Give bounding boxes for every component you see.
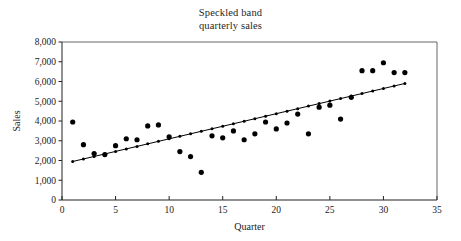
data-point — [145, 123, 150, 128]
data-point — [274, 126, 279, 131]
trend-line-marker — [200, 130, 203, 133]
data-point — [92, 151, 97, 156]
data-point — [242, 137, 247, 142]
trend-line-marker — [371, 90, 374, 93]
data-point — [70, 119, 75, 124]
x-tick-label: 35 — [432, 205, 442, 215]
data-point — [124, 136, 129, 141]
y-tick-label: 4,000 — [35, 116, 57, 126]
data-point — [102, 152, 107, 157]
trend-line-marker — [339, 97, 342, 100]
trend-line-marker — [286, 110, 289, 113]
trend-line-marker — [361, 92, 364, 95]
data-point — [81, 142, 86, 147]
data-point — [220, 135, 225, 140]
trend-line-marker — [189, 132, 192, 135]
trend-line-marker — [157, 140, 160, 143]
data-point — [370, 68, 375, 73]
y-tick-label: 3,000 — [35, 136, 57, 146]
trend-line-marker — [82, 157, 85, 160]
trend-line-marker — [403, 82, 406, 85]
data-point — [252, 131, 257, 136]
trend-line-marker — [275, 112, 278, 115]
data-point — [177, 149, 182, 154]
x-tick-label: 5 — [113, 205, 118, 215]
trend-line-marker — [221, 125, 224, 128]
trend-line-marker — [382, 87, 385, 90]
data-point-series — [70, 60, 407, 175]
x-axis-ticks: 05101520253035 — [60, 196, 442, 215]
y-axis-title: Sales — [11, 110, 22, 131]
data-point — [209, 133, 214, 138]
trend-line-marker — [393, 84, 396, 87]
trend-line-marker — [296, 107, 299, 110]
x-tick-label: 20 — [272, 205, 282, 215]
trend-line-marker — [253, 117, 256, 120]
data-point — [392, 70, 397, 75]
x-tick-label: 15 — [218, 205, 228, 215]
trend-line-marker — [211, 127, 214, 130]
trend-line-marker — [136, 145, 139, 148]
data-point — [134, 137, 139, 142]
trend-line — [71, 82, 406, 163]
data-point — [381, 60, 386, 65]
trend-line-marker — [71, 160, 74, 163]
y-tick-label: 7,000 — [35, 57, 57, 67]
y-tick-label: 1,000 — [35, 176, 57, 186]
trend-line-marker — [328, 100, 331, 103]
trend-line-marker — [307, 105, 310, 108]
data-point — [402, 70, 407, 75]
data-point — [338, 116, 343, 121]
data-point — [156, 122, 161, 127]
trend-line-marker — [264, 115, 267, 118]
x-tick-label: 30 — [379, 205, 389, 215]
x-tick-label: 10 — [164, 205, 174, 215]
y-tick-label: 8,000 — [35, 37, 57, 47]
trend-line-marker — [114, 150, 117, 153]
y-axis-ticks: 01,0002,0003,0004,0005,0006,0007,0008,00… — [35, 37, 62, 205]
data-point — [263, 119, 268, 124]
y-tick-label: 6,000 — [35, 77, 57, 87]
data-point — [167, 134, 172, 139]
trend-line-marker — [125, 147, 128, 150]
y-tick-label: 5,000 — [35, 97, 57, 107]
x-axis-title: Quarter — [234, 221, 265, 232]
data-point — [188, 154, 193, 159]
x-tick-label: 0 — [60, 205, 65, 215]
data-point — [317, 105, 322, 110]
trend-line-marker — [243, 120, 246, 123]
data-point — [359, 68, 364, 73]
data-point — [306, 131, 311, 136]
data-point — [295, 111, 300, 116]
plot-frame — [62, 42, 437, 200]
trend-line-marker — [146, 142, 149, 145]
scatter-plot: 01,0002,0003,0004,0005,0006,0007,0008,00… — [0, 0, 461, 241]
y-tick-label: 2,000 — [35, 156, 57, 166]
trend-line-marker — [178, 135, 181, 138]
y-tick-label: 0 — [51, 195, 56, 205]
chart-figure: Speckled band quarterly sales 01,0002,00… — [0, 0, 461, 241]
x-tick-label: 25 — [325, 205, 335, 215]
data-point — [113, 143, 118, 148]
data-point — [349, 95, 354, 100]
data-point — [284, 120, 289, 125]
data-point — [231, 128, 236, 133]
trend-line-marker — [232, 122, 235, 125]
data-point — [199, 170, 204, 175]
data-point — [327, 103, 332, 108]
